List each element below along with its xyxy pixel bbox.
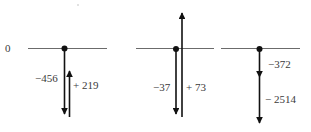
vector-label-minus-456: −456 [35, 72, 58, 84]
vector-label-minus-372: −372 [268, 58, 291, 70]
vector-addition-diagram [0, 0, 311, 132]
vector-label-minus-2514: − 2514 [265, 93, 296, 105]
vector-label-plus-73: + 73 [186, 81, 206, 93]
origin-label: 0 [5, 42, 11, 54]
vector-label-minus-37: −37 [153, 81, 170, 93]
panel-2 [136, 13, 214, 117]
vector-label-plus-219: + 219 [73, 79, 98, 91]
